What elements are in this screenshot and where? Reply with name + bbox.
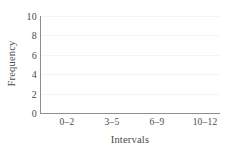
gridline xyxy=(40,94,220,95)
y-axis-tick-labels: 10 8 6 4 2 0 xyxy=(22,0,37,155)
y-tick-label: 4 xyxy=(22,70,37,80)
gridline xyxy=(40,35,220,36)
x-tick-label: 10–12 xyxy=(193,117,218,128)
y-axis-line xyxy=(40,16,41,114)
x-tick-label: 0–2 xyxy=(60,117,75,128)
x-tick-label: 3–5 xyxy=(105,117,120,128)
x-axis-line xyxy=(40,113,220,114)
y-tick-label: 10 xyxy=(22,12,37,22)
x-axis-tick-labels: 0–2 3–5 6–9 10–12 xyxy=(40,117,220,129)
y-axis-title: Frequency xyxy=(6,34,17,94)
x-axis-title: Intervals xyxy=(40,134,220,146)
y-tick-label: 6 xyxy=(22,51,37,61)
gridline xyxy=(40,16,220,17)
gridline xyxy=(40,74,220,75)
plot-area xyxy=(40,16,220,113)
y-tick-label: 2 xyxy=(22,90,37,100)
y-tick-label: 0 xyxy=(22,109,37,119)
bar-chart: 10 8 6 4 2 0 0–2 3–5 6–9 10–12 Frequency… xyxy=(0,0,235,155)
y-tick-label: 8 xyxy=(22,31,37,41)
gridline xyxy=(40,55,220,56)
x-tick-label: 6–9 xyxy=(150,117,165,128)
